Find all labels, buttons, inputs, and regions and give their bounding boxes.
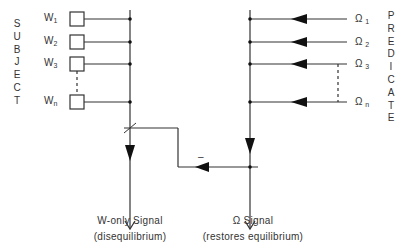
omega2-label: Ω 2 bbox=[355, 37, 369, 50]
omega-output-title: Ω Signal bbox=[190, 213, 316, 229]
predicate-vertical-label: P R E D I C A T E bbox=[386, 10, 396, 125]
letter: T bbox=[386, 100, 396, 113]
omega-output-subtitle: (restores equilibrium) bbox=[190, 229, 316, 245]
letter: A bbox=[386, 87, 396, 100]
w-output-title: W-only Signal bbox=[74, 213, 186, 229]
omegan-label: Ω n bbox=[355, 97, 369, 110]
letter: R bbox=[386, 23, 396, 36]
letter: E bbox=[386, 36, 396, 49]
omega1-label: Ω 1 bbox=[355, 14, 369, 27]
letter: S bbox=[12, 18, 22, 31]
wn-label: Wn bbox=[44, 96, 57, 109]
w-output-subtitle: (disequilibrium) bbox=[74, 229, 186, 245]
omega-down-arrow-icon bbox=[245, 138, 255, 154]
w-output-caption: W-only Signal (disequilibrium) bbox=[74, 213, 186, 245]
letter: I bbox=[386, 61, 396, 74]
subject-vertical-label: S U B J E C T bbox=[12, 18, 22, 108]
letter: C bbox=[12, 82, 22, 95]
omega3-label: Ω 3 bbox=[355, 59, 369, 72]
w2-label: W2 bbox=[44, 36, 57, 49]
letter: J bbox=[12, 56, 22, 69]
letter: D bbox=[386, 48, 396, 61]
letter: P bbox=[386, 10, 396, 23]
w3-box bbox=[70, 57, 84, 71]
w1-box bbox=[70, 12, 84, 26]
omega1-arrow-icon bbox=[291, 14, 307, 24]
wn-box bbox=[70, 95, 84, 109]
letter: E bbox=[12, 69, 22, 82]
omegan-arrow-icon bbox=[291, 97, 307, 107]
w3-label: W3 bbox=[44, 58, 57, 71]
w-down-arrow-icon bbox=[125, 145, 135, 161]
letter: C bbox=[386, 74, 396, 87]
letter: E bbox=[386, 112, 396, 125]
feedback-minus-sign: – bbox=[198, 152, 204, 162]
omega-output-caption: Ω Signal (restores equilibrium) bbox=[190, 213, 316, 245]
omega2-arrow-icon bbox=[291, 37, 307, 47]
letter: B bbox=[12, 44, 22, 57]
omega3-arrow-icon bbox=[291, 59, 307, 69]
letter: U bbox=[12, 31, 22, 44]
w2-box bbox=[70, 35, 84, 49]
feedback-arrow-icon bbox=[195, 162, 209, 172]
letter: T bbox=[12, 95, 22, 108]
w1-label: W1 bbox=[44, 13, 57, 26]
